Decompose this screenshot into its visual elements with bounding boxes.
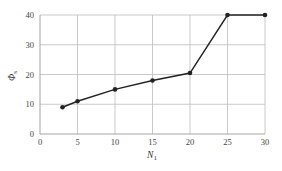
x-tick-label: 20: [186, 137, 195, 147]
y-tick-label: 10: [26, 99, 35, 109]
x-tick-label: 30: [261, 137, 270, 147]
x-tick-labels: 051015202530: [38, 137, 269, 147]
data-point-marker: [263, 13, 268, 18]
line-chart: 051015202530 010203040 N1 Φs: [0, 0, 282, 171]
data-series: [60, 13, 267, 110]
y-tick-label: 40: [26, 10, 35, 20]
data-point-marker: [75, 99, 80, 104]
x-tick-label: 25: [223, 137, 232, 147]
x-axis-label: N1: [146, 150, 157, 162]
y-tick-label: 20: [26, 70, 35, 80]
data-point-marker: [113, 87, 118, 92]
y-tick-label: 0: [30, 129, 34, 139]
grid-lines: [40, 15, 265, 134]
x-tick-label: 15: [148, 137, 157, 147]
x-tick-label: 5: [75, 137, 79, 147]
data-point-marker: [188, 71, 193, 76]
y-tick-labels: 010203040: [26, 10, 35, 139]
x-tick-label: 0: [38, 137, 42, 147]
series-line: [63, 15, 266, 107]
data-point-marker: [60, 105, 65, 110]
data-point-marker: [150, 78, 155, 83]
y-tick-label: 30: [26, 40, 35, 50]
data-point-marker: [225, 13, 230, 18]
x-tick-label: 10: [111, 137, 120, 147]
y-axis-label: Φs: [7, 71, 19, 81]
